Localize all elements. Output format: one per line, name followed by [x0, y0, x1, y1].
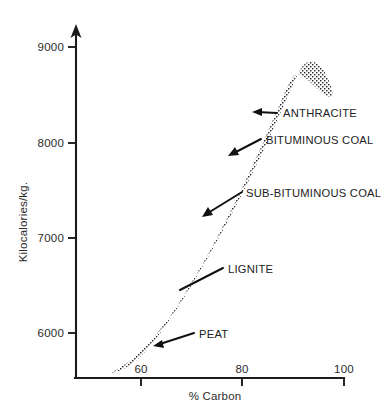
callout-bituminous-label: BITUMINOUS COAL — [266, 134, 374, 146]
chart-canvas: 9000 8000 7000 6000 Kilocalories/kg. 60 … — [0, 0, 389, 420]
x-tick-label-60: 60 — [134, 363, 147, 375]
y-tick-label-8000: 8000 — [38, 137, 64, 149]
chart-background — [0, 0, 389, 420]
callout-sub-bituminous-label: SUB-BITUMINOUS COAL — [246, 187, 381, 199]
x-tick-label-80: 80 — [235, 363, 248, 375]
x-tick-label-100: 100 — [334, 363, 354, 375]
y-tick-label-9000: 9000 — [38, 41, 64, 53]
coal-rank-chart: 9000 8000 7000 6000 Kilocalories/kg. 60 … — [0, 0, 389, 420]
x-axis-title: % Carbon — [189, 390, 242, 402]
y-axis-title: Kilocalories/kg. — [17, 182, 29, 263]
callout-peat-label: PEAT — [199, 328, 228, 340]
y-tick-label-6000: 6000 — [38, 327, 64, 339]
callout-lignite-label: LIGNITE — [228, 263, 273, 275]
y-tick-label-7000: 7000 — [38, 232, 64, 244]
callout-anthracite-label: ANTHRACITE — [283, 107, 357, 119]
